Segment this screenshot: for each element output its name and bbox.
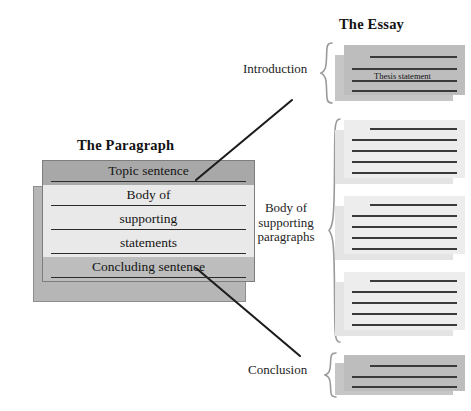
thesis-statement-label: Thesis statement [374, 72, 431, 81]
text-line [352, 215, 457, 217]
text-line [352, 139, 457, 141]
text-line [370, 280, 457, 282]
paragraph-row-topic-sentence: Topic sentence [43, 161, 254, 185]
paragraph-row-label: supporting [120, 212, 178, 231]
body-label-line-2: supporting [258, 215, 314, 230]
essay-block-body-paragraph-2 [335, 196, 465, 262]
essay-block-body-paragraph-3 [335, 272, 465, 338]
sheet-front: Thesis statement [344, 45, 465, 95]
essay-block-body-paragraph-1 [335, 120, 465, 186]
sheet-front [344, 120, 465, 178]
text-line [352, 68, 457, 70]
text-line [352, 302, 457, 304]
text-line [352, 248, 457, 250]
sheet-front [344, 355, 465, 391]
paragraph-title: The Paragraph [77, 137, 174, 154]
essay-title: The Essay [339, 16, 404, 33]
paragraph-row-supporting: supporting [43, 209, 254, 233]
text-line [352, 161, 457, 163]
essay-section-label-conclusion: Conclusion [248, 363, 307, 378]
text-line [352, 386, 457, 388]
diagram-canvas: The Essay The Paragraph Topic sentence B… [0, 0, 471, 411]
paragraph-row-body-of: Body of [43, 185, 254, 209]
brace-introduction [320, 42, 334, 104]
sheet-front [344, 196, 465, 254]
essay-section-label-introduction: Introduction [243, 62, 307, 77]
text-line [352, 226, 457, 228]
text-line [370, 128, 457, 130]
text-line [370, 56, 457, 58]
text-line [352, 324, 457, 326]
text-line [352, 237, 457, 239]
body-label-line-3: paragraphs [257, 229, 314, 244]
text-line [370, 365, 457, 367]
sheet-front [344, 272, 465, 330]
text-line [352, 90, 457, 92]
text-line [352, 313, 457, 315]
paragraph-row-label: Topic sentence [108, 164, 188, 183]
text-line [352, 150, 457, 152]
text-line [370, 204, 457, 206]
paragraph-row-label: Body of [127, 188, 171, 207]
paragraph-band-stack: Topic sentence Body of supporting statem… [42, 160, 255, 282]
essay-section-label-body: Body of supporting paragraphs [246, 201, 326, 245]
paragraph-row-label: Concluding sentence [92, 260, 205, 279]
text-line [352, 291, 457, 293]
essay-block-introduction: Thesis statement [335, 45, 465, 103]
paragraph-row-label: statements [120, 236, 177, 255]
text-line [352, 376, 457, 378]
body-label-line-1: Body of [265, 200, 307, 215]
essay-block-conclusion [335, 355, 465, 399]
text-line [352, 172, 457, 174]
paragraph-row-statements: statements [43, 233, 254, 257]
paragraph-row-concluding-sentence: Concluding sentence [43, 257, 254, 281]
